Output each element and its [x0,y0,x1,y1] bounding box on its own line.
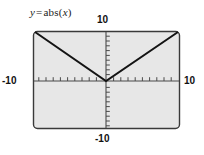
x-axis-max-label: 10 [184,75,195,86]
y-axis-max-label: 10 [97,14,108,25]
graph-figure: y=abs(x) [0,0,204,155]
x-axis-min-label: -10 [2,75,16,86]
y-axis-min-label: -10 [95,133,109,144]
